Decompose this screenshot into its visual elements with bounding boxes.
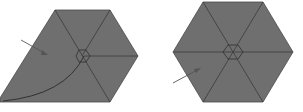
hexagon-diagram: [0, 0, 303, 112]
right-hexagon-shape: [173, 2, 293, 102]
left-hexagon-shape: [0, 10, 138, 102]
figure-canvas: [0, 0, 303, 112]
